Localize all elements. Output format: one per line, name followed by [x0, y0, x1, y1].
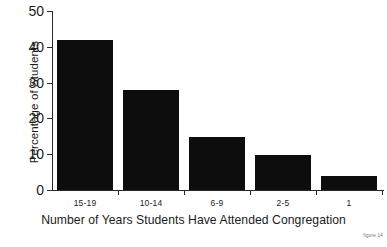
y-tick-label: 10: [28, 146, 44, 162]
y-tick-label: 50: [28, 3, 44, 19]
x-tick-mark: [118, 190, 119, 195]
x-tick-mark: [316, 190, 317, 195]
y-tick-label: 30: [28, 75, 44, 91]
x-tick-mark: [382, 190, 383, 195]
y-tick-label: 20: [28, 110, 44, 126]
y-tick-mark: [47, 190, 52, 191]
y-tick-label: 40: [28, 39, 44, 55]
bar-chart-figure: Percentage of Students 01020304050 Numbe…: [0, 0, 387, 247]
bar: [57, 40, 113, 190]
y-tick-mark: [47, 11, 52, 12]
x-tick-label: 1: [347, 198, 352, 208]
figure-caption: figure 14: [363, 233, 383, 238]
y-tick-mark: [47, 83, 52, 84]
bar: [123, 90, 179, 190]
x-tick-label: 15-19: [74, 198, 97, 208]
x-tick-label: 10-14: [140, 198, 163, 208]
y-tick-mark: [47, 154, 52, 155]
x-axis-spine: [52, 190, 384, 191]
x-tick-mark: [250, 190, 251, 195]
y-axis-label: Percentage of Students: [28, 7, 40, 197]
bar: [255, 155, 311, 190]
x-tick-label: 2-5: [277, 198, 290, 208]
y-tick-label: 0: [36, 182, 44, 198]
plot-area: 01020304050: [52, 11, 382, 190]
x-axis-label: Number of Years Students Have Attended C…: [0, 213, 387, 227]
x-tick-label: 6-9: [211, 198, 224, 208]
bar: [189, 137, 245, 190]
y-tick-mark: [47, 118, 52, 119]
bar: [321, 176, 377, 190]
y-tick-mark: [47, 47, 52, 48]
x-tick-mark: [184, 190, 185, 195]
